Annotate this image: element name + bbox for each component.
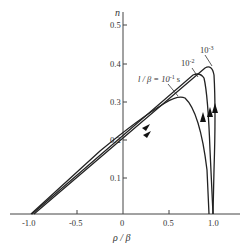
x-ticks: -1.0 -0.5 0 0.5 1.0 <box>22 210 219 228</box>
label-leader <box>205 55 212 66</box>
x-tick-label: 0 <box>120 218 124 228</box>
arrow-icon <box>143 131 151 138</box>
curve-label-10e-1: l / β = 10-1 s <box>138 74 180 84</box>
y-tick-label: 0.5 <box>110 20 121 30</box>
arrow-icon <box>142 124 150 131</box>
x-tick-label: 0.5 <box>163 218 174 228</box>
arrow-icon <box>212 103 218 113</box>
y-tick-label: 0.3 <box>110 97 121 107</box>
direction-arrows <box>142 103 218 138</box>
y-axis-title: n <box>115 7 120 18</box>
x-axis-title: ρ / β <box>112 232 131 243</box>
y-tick-label: 0.4 <box>110 59 121 69</box>
phase-plot: -1.0 -0.5 0 0.5 1.0 0.1 0.2 0.3 0.4 0.5 … <box>0 0 252 248</box>
x-tick-label: -0.5 <box>69 218 82 228</box>
x-tick-label: 1.0 <box>208 218 219 228</box>
y-ticks: 0.1 0.2 0.3 0.4 0.5 <box>110 20 127 183</box>
arrow-icon <box>200 112 206 122</box>
curve-label-10e-3: 10-3 <box>200 45 214 55</box>
y-tick-label: 0.2 <box>110 135 121 145</box>
curve-label-10e-2: 10-2 <box>181 58 195 68</box>
curve-10e-1 <box>31 97 209 214</box>
x-tick-label: -1.0 <box>22 218 35 228</box>
y-tick-label: 0.1 <box>110 173 121 183</box>
